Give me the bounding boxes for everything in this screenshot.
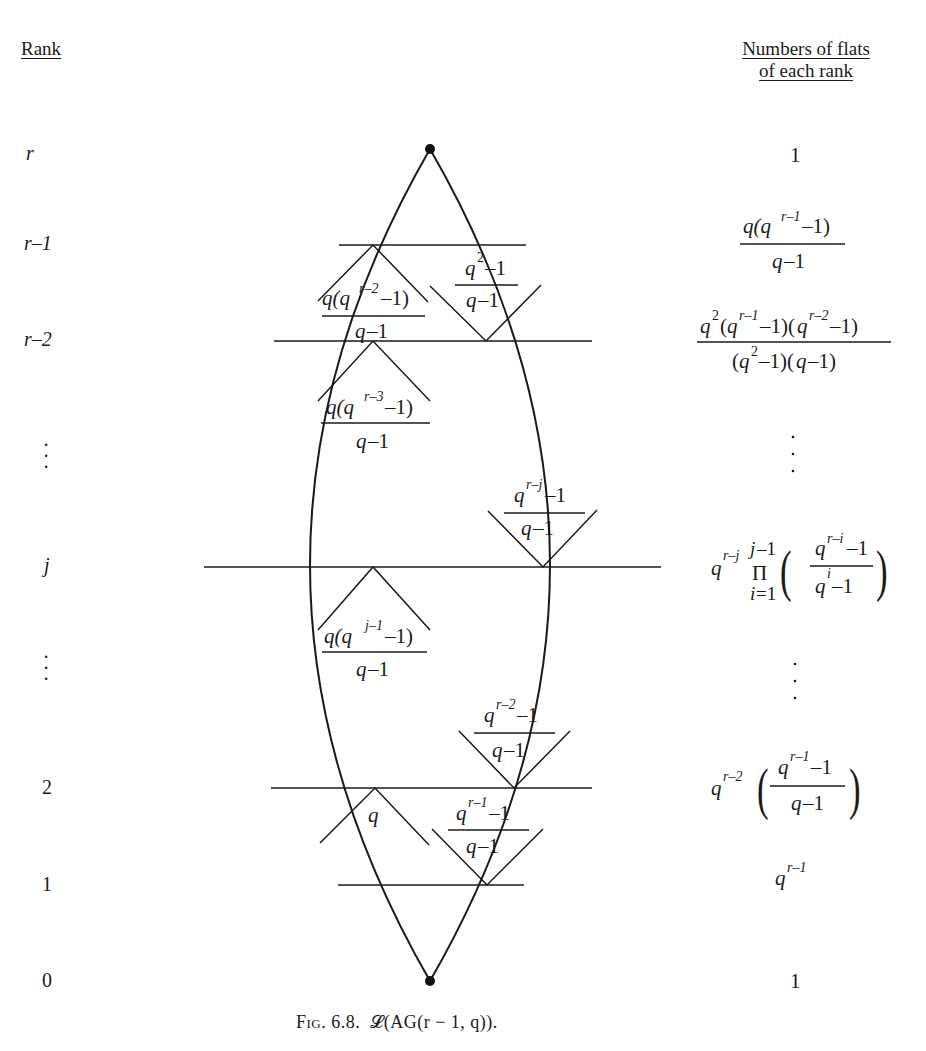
count-rank-r-minus-2: q 2 ( q r–1 –1)( q r–2 –1) ( q 2 –1)( q … bbox=[697, 308, 891, 373]
svg-text:–1): –1) bbox=[829, 314, 858, 338]
svg-text:–1): –1) bbox=[384, 395, 413, 419]
svg-text:Π: Π bbox=[752, 561, 767, 585]
svg-text:): ) bbox=[849, 756, 861, 821]
svg-text:q: q bbox=[772, 249, 783, 273]
edge-label-down-r-minus-1: q 2 –1 q–1 bbox=[455, 250, 518, 312]
svg-text:–1: –1 bbox=[367, 657, 389, 681]
svg-text:q: q bbox=[727, 314, 738, 338]
svg-text:q: q bbox=[711, 556, 722, 580]
svg-text:–1: –1 bbox=[484, 256, 506, 280]
svg-text:–1): –1) bbox=[801, 214, 830, 238]
svg-text:q: q bbox=[514, 483, 525, 507]
edge-label-up-r-minus-2: q(q r–2 –1) q–1 bbox=[322, 281, 425, 343]
svg-text:–1: –1 bbox=[516, 703, 538, 727]
svg-text:q: q bbox=[815, 574, 826, 598]
svg-text:q: q bbox=[711, 776, 722, 800]
svg-text:–1): –1) bbox=[380, 286, 409, 310]
edge-label-q: q bbox=[368, 803, 379, 827]
svg-text:–1: –1 bbox=[544, 483, 566, 507]
svg-text:–1: –1 bbox=[477, 288, 499, 312]
svg-text:r–1: r–1 bbox=[790, 749, 809, 764]
svg-text:r–j: r–j bbox=[723, 548, 739, 563]
count-rank-2: q r–2 ( q r–1 –1 q–1 ) bbox=[711, 749, 861, 821]
top-node bbox=[425, 144, 435, 154]
svg-text:q: q bbox=[456, 801, 467, 825]
svg-text:q: q bbox=[356, 657, 367, 681]
svg-text:r–1: r–1 bbox=[787, 860, 806, 875]
svg-text:i: i bbox=[827, 566, 831, 581]
count-rank-r: 1 bbox=[790, 143, 801, 167]
svg-text:q: q bbox=[492, 738, 503, 762]
svg-text:–1: –1 bbox=[367, 429, 389, 453]
svg-text:2: 2 bbox=[712, 308, 719, 323]
svg-text:–1: –1 bbox=[810, 755, 832, 779]
svg-text:2: 2 bbox=[751, 344, 758, 359]
svg-text:q: q bbox=[791, 791, 802, 815]
svg-text:i: i bbox=[750, 583, 755, 604]
count-ellipsis-lower bbox=[794, 663, 797, 700]
svg-text:q: q bbox=[466, 288, 477, 312]
count-rank-r-minus-1: q(q r–1 –1) q–1 bbox=[740, 209, 845, 273]
bottom-node bbox=[425, 976, 435, 986]
svg-text:–1)(: –1)( bbox=[759, 314, 795, 338]
svg-text:(: ( bbox=[780, 538, 792, 603]
svg-text:r–2: r–2 bbox=[809, 308, 828, 323]
svg-text:–1: –1 bbox=[802, 791, 824, 815]
svg-text:–1: –1 bbox=[831, 574, 853, 598]
svg-text:–1: –1 bbox=[756, 538, 776, 559]
svg-text:): ) bbox=[876, 538, 888, 603]
svg-text:q: q bbox=[700, 314, 711, 338]
edge-label-up-r-minus-3: q(q r–3 –1) q–1 bbox=[321, 389, 430, 453]
svg-text:r–2: r–2 bbox=[723, 769, 742, 784]
svg-text:r–1: r–1 bbox=[739, 308, 758, 323]
svg-text:q: q bbox=[797, 314, 808, 338]
svg-text:q: q bbox=[775, 866, 786, 890]
svg-text:–1): –1) bbox=[807, 349, 836, 373]
svg-text:–1)(: –1)( bbox=[758, 349, 794, 373]
svg-text:j–1: j–1 bbox=[363, 618, 383, 633]
svg-text:q: q bbox=[739, 349, 750, 373]
svg-text:–1: –1 bbox=[846, 536, 868, 560]
svg-text:q(q: q(q bbox=[326, 395, 354, 419]
svg-text:–1: –1 bbox=[532, 516, 554, 540]
svg-text:r–2: r–2 bbox=[496, 697, 515, 712]
figure-number: Fig. 6.8. bbox=[296, 1012, 360, 1032]
svg-text:q: q bbox=[521, 516, 532, 540]
count-rank-0: 1 bbox=[790, 969, 801, 993]
svg-text:q: q bbox=[355, 319, 366, 343]
svg-text:–1: –1 bbox=[783, 249, 805, 273]
edge-label-down-to-j: q r–j –1 q–1 bbox=[504, 477, 585, 540]
svg-text:j: j bbox=[747, 538, 755, 559]
svg-text:(: ( bbox=[720, 314, 727, 338]
svg-text:–1: –1 bbox=[366, 319, 388, 343]
edge-label-up-from-j: q(q j–1 –1) q–1 bbox=[322, 618, 427, 681]
svg-text:q(q: q(q bbox=[324, 624, 352, 648]
edge-label-down-to-2: q r–2 –1 q–1 bbox=[474, 697, 555, 762]
count-rank-1: q r–1 bbox=[775, 860, 806, 890]
figure-caption: Fig. 6.8. 𝓛(AG(r − 1, q)). bbox=[296, 1012, 498, 1033]
lens-outline-left bbox=[310, 149, 430, 981]
svg-text:r–j: r–j bbox=[526, 477, 542, 492]
svg-text:q: q bbox=[356, 429, 367, 453]
svg-text:r–i: r–i bbox=[827, 531, 843, 546]
svg-text:r–2: r–2 bbox=[359, 281, 378, 296]
svg-text:–1): –1) bbox=[384, 624, 413, 648]
svg-text:–1: –1 bbox=[477, 834, 499, 858]
svg-text:r–1: r–1 bbox=[468, 795, 487, 810]
lattice-diagram: q(q r–2 –1) q–1 q 2 –1 q–1 q(q r–3 –1) q… bbox=[0, 0, 926, 1051]
svg-text:–1: –1 bbox=[503, 738, 525, 762]
svg-text:r–3: r–3 bbox=[364, 389, 383, 404]
svg-text:(: ( bbox=[732, 349, 739, 373]
svg-text:(: ( bbox=[757, 756, 769, 821]
svg-text:q: q bbox=[484, 703, 495, 727]
svg-text:q: q bbox=[815, 536, 826, 560]
svg-text:r–1: r–1 bbox=[781, 209, 800, 224]
svg-text:q(q: q(q bbox=[743, 214, 771, 238]
count-ellipsis-upper bbox=[792, 436, 795, 473]
svg-text:q: q bbox=[465, 256, 476, 280]
svg-text:q: q bbox=[796, 349, 807, 373]
svg-text:q: q bbox=[466, 834, 477, 858]
svg-text:–1: –1 bbox=[488, 801, 510, 825]
svg-text:q: q bbox=[778, 755, 789, 779]
count-rank-j: q r–j j–1 Π i=1 ( q r–i –1 q i –1 ) bbox=[711, 531, 888, 604]
